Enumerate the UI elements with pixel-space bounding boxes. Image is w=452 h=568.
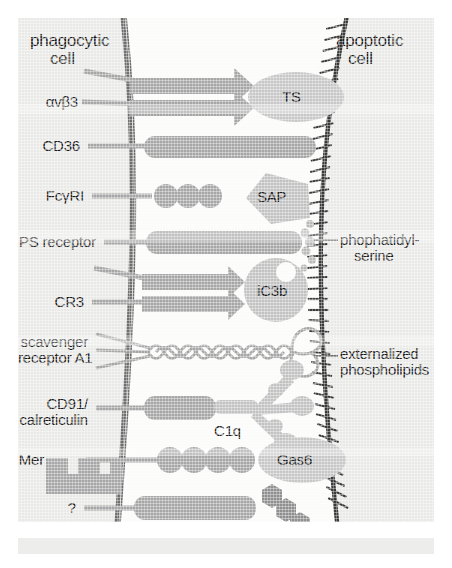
apoptotic-cell-title: apoptotic cell (336, 32, 403, 69)
label-ps-receptor: PS receptor (18, 234, 96, 250)
annotation-externalized-phospholipids: externalized phospholipids (340, 346, 429, 378)
c1q-head (267, 419, 283, 433)
c1q-head (280, 360, 304, 380)
figure-root: phagocytic cell apoptotic cell αvβ3 CD36… (0, 0, 452, 568)
annotation-phosphatidylserine: phophatidyl- serine (340, 232, 419, 264)
mer-bead (229, 447, 255, 473)
mer-bead (205, 447, 231, 473)
receptor-cd36[interactable] (88, 136, 316, 158)
c1q-stalk (214, 400, 258, 414)
label-scavenger-a1: scavenger receptor A1 (18, 334, 88, 366)
label-mer: Mer (18, 452, 44, 468)
label-avb3: αvβ3 (18, 94, 78, 110)
ligand-label-altered: altered (202, 520, 262, 522)
mer-intracellular (46, 458, 122, 494)
mer-bead (157, 447, 183, 473)
receptor-cd91[interactable] (96, 396, 216, 420)
label-unknown: ? (18, 500, 76, 516)
fcgri-bead (154, 184, 178, 208)
ligand-label-sap: SAP (257, 188, 286, 205)
mer-bead (181, 447, 207, 473)
phagocytic-cell-title: phagocytic cell (30, 32, 109, 69)
receptor-unknown[interactable] (84, 496, 256, 520)
label-cd91-calreticulin: CD91/ calreticulin (18, 396, 88, 428)
c1q-head (290, 396, 314, 416)
diagram-panel: phagocytic cell apoptotic cell αvβ3 CD36… (18, 18, 434, 522)
diagram-canvas (18, 18, 434, 522)
ic3b-highlight (276, 262, 296, 282)
fcgri-bead (198, 184, 222, 208)
unknown-bar (134, 496, 256, 520)
footer-strip (18, 538, 434, 554)
label-cr3: CR3 (18, 294, 84, 310)
scavenger-tail (96, 350, 150, 352)
label-fcgri: FcγRI (18, 188, 84, 204)
ligand-label-gas6: Gas6 (277, 451, 312, 468)
cd36-bar (144, 136, 316, 158)
label-cd36: CD36 (18, 138, 80, 154)
fcgri-bead (176, 184, 200, 208)
ps-bar (146, 231, 302, 254)
cd91-bar (144, 396, 216, 420)
ligand-label-c1q: C1q (214, 422, 241, 439)
ligand-label-ic3b: iC3b (257, 282, 287, 299)
c1q-head (268, 383, 284, 397)
ligand-label-ts: TS (282, 88, 301, 105)
